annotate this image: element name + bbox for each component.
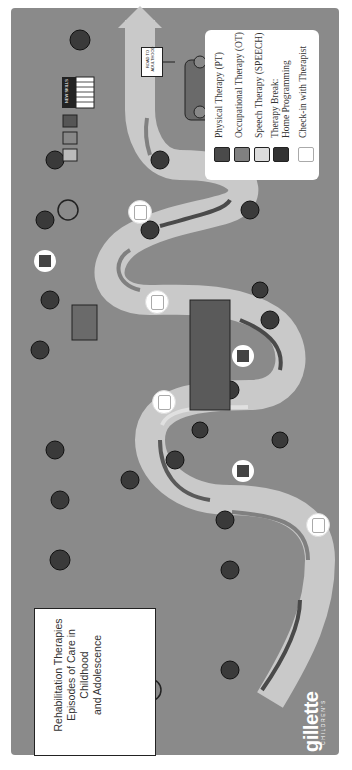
therapy-break-house-icon bbox=[232, 345, 254, 367]
ot-square-icon bbox=[234, 147, 250, 162]
title-line-2: Episodes of Care in Childhood bbox=[65, 613, 91, 737]
title-line-1: Rehabilitation Therapies bbox=[52, 613, 65, 737]
road-arrow-icon bbox=[118, 6, 162, 28]
page-title: Rehabilitation Therapies Episodes of Car… bbox=[52, 613, 104, 737]
checkin-tablet-icon bbox=[152, 390, 176, 414]
legend-break-label: Therapy Break: bbox=[270, 79, 280, 138]
legend-checkin-label: Check-in with Therapist bbox=[298, 46, 308, 138]
legend-break-label-2: Home Programming bbox=[281, 60, 291, 138]
legend-speech-label: Speech Therapy (SPEECH) bbox=[254, 33, 264, 138]
legend-ot-label: Occupational Therapy (OT) bbox=[234, 32, 244, 138]
house-icon bbox=[273, 147, 289, 162]
checkin-tablet-icon bbox=[306, 513, 330, 537]
speech-square-icon bbox=[254, 147, 270, 162]
therapy-break-house-icon bbox=[34, 250, 56, 272]
therapy-break-house-icon bbox=[232, 460, 254, 482]
road-sign-text: ROAD TO ADULTHOOD bbox=[145, 46, 155, 72]
tablet-icon bbox=[298, 147, 314, 162]
checkin-tablet-icon bbox=[128, 200, 152, 224]
checkin-tablet-icon bbox=[145, 290, 169, 314]
pt-square-icon bbox=[214, 147, 230, 162]
gillette-logo-sub: CHILDREN'S bbox=[320, 699, 326, 745]
title-line-3: and Adolescence bbox=[91, 613, 104, 737]
skills-sign-text: NEW SKILLS bbox=[64, 78, 69, 104]
legend-pt-label: Physical Therapy (PT) bbox=[214, 52, 224, 138]
